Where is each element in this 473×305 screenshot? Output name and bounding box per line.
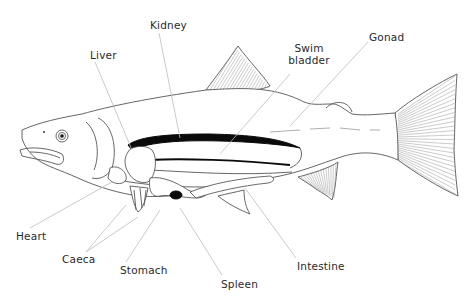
label-caeca: Caeca	[62, 253, 95, 265]
label-stomach: Stomach	[120, 264, 168, 276]
label-swim-bladder-line1: Swim	[283, 42, 335, 54]
caudal-fin	[395, 74, 458, 196]
eye	[56, 130, 68, 142]
nostril	[43, 131, 45, 133]
caeca-organ	[130, 186, 148, 212]
label-liver: Liver	[90, 49, 117, 61]
dorsal-fin	[206, 46, 270, 92]
label-spleen: Spleen	[221, 278, 258, 290]
label-intestine: Intestine	[297, 260, 345, 272]
pelvic-fin	[218, 190, 250, 214]
spleen-organ	[170, 191, 182, 199]
label-gonad: Gonad	[369, 31, 404, 43]
label-swim-bladder-line2: bladder	[283, 54, 335, 66]
label-swim-bladder: Swim bladder	[283, 42, 335, 66]
fish-anatomy-diagram: Kidney Liver Swim bladder Gonad Heart Ca…	[0, 0, 473, 305]
fish-body	[22, 89, 398, 197]
label-kidney: Kidney	[150, 19, 187, 31]
label-heart: Heart	[16, 230, 46, 242]
